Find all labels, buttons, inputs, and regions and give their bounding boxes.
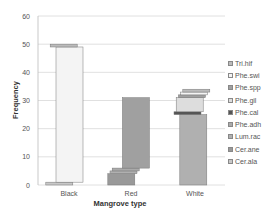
y-tick-label: 40 bbox=[22, 69, 30, 76]
legend-item: Tri.hif bbox=[228, 57, 261, 69]
legend-label: Cer.ala bbox=[235, 158, 257, 165]
legend-label: Phe.swi bbox=[235, 72, 260, 79]
legend-label: Cer.ane bbox=[235, 146, 260, 153]
legend-label: Phe.gil bbox=[235, 97, 256, 104]
legend-label: Tri.hif bbox=[235, 60, 252, 67]
y-tick-label: 60 bbox=[22, 13, 30, 20]
legend-swatch-icon bbox=[228, 73, 233, 78]
bar-segment bbox=[181, 92, 208, 95]
bar-segment bbox=[178, 95, 205, 98]
x-axis-title: Mangrove type bbox=[94, 199, 147, 208]
y-tick-label: 20 bbox=[22, 125, 30, 132]
legend-swatch-icon bbox=[228, 110, 233, 115]
bar-segment bbox=[174, 112, 201, 115]
bars bbox=[46, 44, 210, 185]
bar-segment bbox=[108, 174, 135, 185]
bar-segment bbox=[183, 89, 210, 92]
legend-label: Lum.rac bbox=[235, 133, 260, 140]
legend-label: Phe.spp bbox=[235, 84, 261, 91]
legend-item: Phe.gil bbox=[228, 94, 261, 106]
legend-item: Cer.ala bbox=[228, 155, 261, 167]
x-tick-label: Red bbox=[125, 190, 138, 197]
y-tick-label: 50 bbox=[22, 41, 30, 48]
bar-segment bbox=[50, 44, 77, 47]
y-axis-title: Frequency bbox=[11, 80, 20, 119]
legend-label: Phe.cal bbox=[235, 109, 258, 116]
bar-segment bbox=[180, 115, 207, 185]
bar-segment bbox=[176, 98, 203, 112]
y-axis-ticks: 0102030405060 bbox=[22, 13, 30, 189]
legend-swatch-icon bbox=[228, 159, 233, 164]
legend-item: Phe.spp bbox=[228, 82, 261, 94]
y-tick-label: 30 bbox=[22, 97, 30, 104]
legend-swatch-icon bbox=[228, 134, 233, 139]
bar-segment bbox=[56, 47, 83, 182]
bar-segment bbox=[46, 182, 73, 185]
legend-swatch-icon bbox=[228, 147, 233, 152]
y-tick-label: 0 bbox=[26, 182, 30, 189]
legend-swatch-icon bbox=[228, 122, 233, 127]
legend-item: Phe.cal bbox=[228, 106, 261, 118]
legend-swatch-icon bbox=[228, 98, 233, 103]
legend-swatch-icon bbox=[228, 85, 233, 90]
legend-item: Phe.adh bbox=[228, 118, 261, 130]
bar-segment bbox=[110, 171, 137, 174]
x-axis-ticks: BlackRedWhite bbox=[60, 190, 204, 197]
legend-item: Cer.ane bbox=[228, 143, 261, 155]
y-tick-label: 10 bbox=[22, 153, 30, 160]
legend-item: Lum.rac bbox=[228, 131, 261, 143]
legend-swatch-icon bbox=[228, 61, 233, 66]
x-tick-label: Black bbox=[60, 190, 78, 197]
bar-segment bbox=[112, 168, 139, 171]
legend: Tri.hifPhe.swiPhe.sppPhe.gilPhe.calPhe.a… bbox=[228, 57, 261, 168]
legend-label: Phe.adh bbox=[235, 121, 261, 128]
bar-segment bbox=[122, 98, 149, 168]
x-tick-label: White bbox=[186, 190, 204, 197]
legend-item: Phe.swi bbox=[228, 69, 261, 81]
